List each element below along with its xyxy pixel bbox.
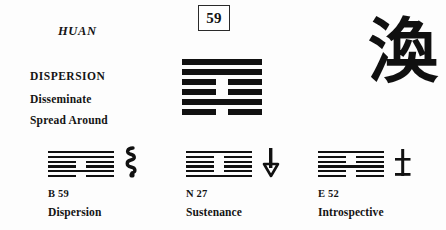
keyword-sub-2: Spread Around <box>30 114 108 126</box>
mini-hexagram-3-line-1-yang <box>318 151 384 153</box>
mini-hexagram-3-line-3-yin <box>318 161 384 163</box>
panel-3-figure <box>312 148 446 184</box>
related-hexagram-panel-2: N 27 Sustenance <box>180 148 320 230</box>
mini-hexagram-1-line-4-yin <box>48 165 114 167</box>
mini-hexagram-2-line-5-yin <box>186 170 252 172</box>
coiled-serpent-icon <box>120 146 146 180</box>
related-hexagram-panel-1: B 59 Dispersion <box>42 148 182 230</box>
keyword-main: DISPERSION <box>30 70 105 82</box>
mini-hexagram-1 <box>48 151 114 177</box>
mini-hexagram-3 <box>318 151 384 177</box>
mini-hexagram-1-line-6-yin <box>48 175 114 177</box>
mini-hexagram-3-line-5-yin <box>318 170 384 172</box>
panel-1-name: Dispersion <box>48 206 101 218</box>
mini-hexagram-2-line-2-yin <box>186 156 252 158</box>
hexagram-card: HUAN 59 DISPERSION Disseminate Spread Ar… <box>0 0 446 230</box>
mini-hexagram-3-line-6-yin <box>318 175 384 177</box>
panel-2-code: N 27 <box>186 188 208 199</box>
main-hexagram-line-4-yin <box>182 89 262 95</box>
mini-hexagram-2-line-3-yin <box>186 161 252 163</box>
mini-hexagram-2 <box>186 151 252 177</box>
main-hexagram-line-3-yin <box>182 79 262 85</box>
main-hexagram-line-1-yang <box>182 59 262 65</box>
panel-2-figure <box>180 148 320 184</box>
panel-3-name: Introspective <box>318 206 384 218</box>
mini-hexagram-2-line-1-yang <box>186 151 252 153</box>
keyword-sub-1: Disseminate <box>30 93 92 105</box>
panel-1-code: B 59 <box>48 188 69 199</box>
mini-hexagram-2-line-6-yang <box>186 175 252 177</box>
down-arrow-icon <box>258 146 284 180</box>
main-hexagram-line-5-yang <box>182 99 262 105</box>
main-hexagram <box>182 59 262 115</box>
panel-2-name: Sustenance <box>186 206 242 218</box>
main-hexagram-line-2-yang <box>182 69 262 75</box>
panel-1-figure <box>42 148 182 184</box>
mini-hexagram-3-line-2-yin <box>318 156 384 158</box>
mini-hexagram-2-line-4-yin <box>186 165 252 167</box>
panel-3-code: E 52 <box>318 188 339 199</box>
mini-hexagram-1-line-3-yin <box>48 161 114 163</box>
mini-hexagram-3-line-4-yang <box>318 165 384 167</box>
vertical-bar-cross-icon <box>390 146 416 180</box>
mini-hexagram-1-line-5-yang <box>48 170 114 172</box>
hexagram-number-badge: 59 <box>198 5 230 31</box>
related-hexagram-panel-3: E 52 Introspective <box>312 148 446 230</box>
related-hexagrams-row: B 59 Dispersion N 27 Sustenance <box>0 148 446 230</box>
romanization-title: HUAN <box>58 24 97 39</box>
hexagram-number: 59 <box>206 10 222 27</box>
main-hexagram-line-6-yin <box>182 109 262 115</box>
mini-hexagram-1-line-2-yang <box>48 156 114 158</box>
chinese-calligraphy-character: 渙 <box>366 14 440 90</box>
mini-hexagram-1-line-1-yang <box>48 151 114 153</box>
